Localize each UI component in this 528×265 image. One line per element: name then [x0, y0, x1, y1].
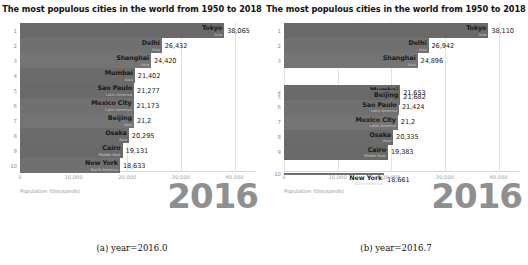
- bar-row[interactable]: 6Mexico CityLatin America21,173: [20, 98, 256, 113]
- bar-rank-label: 1: [271, 28, 281, 34]
- panel-caption: (a) year=2016.0: [0, 243, 264, 253]
- bar[interactable]: [284, 38, 429, 53]
- bar-rank-label: 10: [7, 163, 17, 169]
- bar-row[interactable]: 6Sao PauloLatin America21,424: [284, 100, 520, 115]
- bar-region-label: Asia: [408, 62, 416, 67]
- bar-region-label: Asia: [478, 32, 486, 37]
- bar-rank-label: 2: [271, 43, 281, 49]
- bar-rank-label: 7: [271, 119, 281, 125]
- bar-value-label: 26,942: [432, 42, 454, 50]
- bar-region-label: Asia: [383, 138, 391, 143]
- bar-region-label: Latin America: [105, 107, 131, 112]
- bar-rank-label: 8: [7, 133, 17, 139]
- bar-rank-label: 7: [7, 118, 17, 124]
- x-tick-label: 10,000: [65, 174, 83, 180]
- x-tick-label: 20,000: [382, 174, 400, 180]
- x-axis-label: Population (thousands): [20, 188, 80, 194]
- bar-region-label: Latin America: [370, 123, 396, 128]
- bar-rank-label: 5: [7, 88, 17, 94]
- bar-value-label: 21,2: [401, 118, 415, 126]
- bar-value-label: 21,277: [137, 87, 159, 95]
- bar-value-label: 21,402: [138, 72, 160, 80]
- x-tick-label: 20,000: [118, 174, 136, 180]
- figure-two-panel-bar-chart-race: The most populous cities in the world fr…: [0, 0, 528, 265]
- bar-region-label: Asia: [125, 77, 133, 82]
- bar-rank-label: 9: [271, 149, 281, 155]
- chart-panel-a: The most populous cities in the world fr…: [0, 0, 264, 265]
- year-annotation: 2016: [431, 179, 522, 213]
- bar[interactable]: [284, 23, 488, 38]
- bar-region-label: Asia: [419, 47, 427, 52]
- bar-row[interactable]: 1TokyoAsia38,065: [20, 23, 256, 38]
- bar-value-label: 19,131: [126, 147, 148, 155]
- bar-rank-label: 2: [7, 43, 17, 49]
- bar-region-label: Asia: [152, 47, 160, 52]
- bar-value-label: 21,173: [137, 102, 159, 110]
- bar-region-label: Asia: [141, 62, 149, 67]
- bar-region-label: North America: [90, 167, 118, 172]
- bar-value-label: 26,432: [165, 42, 187, 50]
- bar[interactable]: [20, 23, 224, 38]
- bar-value-label: 24,896: [421, 57, 443, 65]
- bar-row[interactable]: 8OsakaAsia20,295: [20, 128, 256, 143]
- bar-rank-label: 10: [271, 171, 281, 177]
- bar-value-label: 19,383: [391, 148, 413, 156]
- bar-region-label: Asia: [124, 122, 132, 127]
- bar-rank-label: 6: [271, 104, 281, 110]
- x-tick-label: 0: [18, 174, 21, 180]
- bar-row[interactable]: 9CairoMiddle East19,383: [284, 145, 520, 160]
- bar-rank-label: 4: [7, 73, 17, 79]
- plot-area-a: 1TokyoAsia38,0652DelhiAsia26,4323Shangha…: [20, 22, 256, 194]
- bar-region-label: Middle East: [99, 152, 121, 157]
- bar-row[interactable]: 7Mexico CityLatin America21,2: [284, 115, 520, 130]
- bar-region-label: Asia: [119, 137, 127, 142]
- bar-rank-label: 3: [271, 58, 281, 64]
- bar-value-label: 21,2: [137, 117, 151, 125]
- bar-value-label: 24,420: [154, 57, 176, 65]
- bar-region-label: Asia: [214, 32, 222, 37]
- bar-row[interactable]: 7BeijingAsia21,2: [20, 113, 256, 128]
- chart-title: The most populous cities in the world fr…: [264, 4, 528, 14]
- bar-value-label: 18,633: [123, 162, 145, 170]
- bar-row[interactable]: 2DelhiAsia26,432: [20, 38, 256, 53]
- bar-rank-label: 8: [271, 134, 281, 140]
- bar-rank-label: 3: [7, 58, 17, 64]
- bar-region-label: Latin America: [106, 92, 132, 97]
- chart-panel-b: The most populous cities in the world fr…: [264, 0, 528, 265]
- bar-row[interactable]: 1TokyoAsia38,110: [284, 23, 520, 38]
- bar-row[interactable]: 2DelhiAsia26,942: [284, 38, 520, 53]
- bar-row[interactable]: 5Sao PauloLatin America21,277: [20, 83, 256, 98]
- x-axis-label: Population (thousands): [284, 188, 344, 194]
- x-tick-label: 10,000: [329, 174, 347, 180]
- bar-rank-label: 1: [7, 28, 17, 34]
- bar-value-label: 20,295: [132, 132, 154, 140]
- bar-row[interactable]: 3ShanghaiAsia24,896: [284, 53, 520, 68]
- bar-rank-label: 6: [7, 103, 17, 109]
- year-annotation: 2016: [167, 179, 258, 213]
- bar[interactable]: [20, 38, 162, 53]
- chart-title: The most populous cities in the world fr…: [0, 4, 264, 14]
- bar-region-label: Latin America: [371, 108, 397, 113]
- bar-row[interactable]: 8OsakaAsia20,335: [284, 130, 520, 145]
- bar-region-label: Middle East: [364, 153, 386, 158]
- bar-rank-label: 9: [7, 148, 17, 154]
- bar-row[interactable]: 9CairoMiddle East19,131: [20, 143, 256, 158]
- bar-row[interactable]: 3ShanghaiAsia24,420: [20, 53, 256, 68]
- x-tick-label: 0: [282, 174, 285, 180]
- bar-rank-label: 5: [271, 94, 281, 100]
- panel-caption: (b) year=2016.7: [264, 243, 528, 253]
- bar-value-label: 38,065: [227, 27, 249, 35]
- plot-area-b: 1TokyoAsia38,1102DelhiAsia26,9423Shangha…: [284, 22, 520, 194]
- bar-value-label: 20,335: [396, 133, 418, 141]
- bar-value-label: 21,424: [402, 103, 424, 111]
- bar-row[interactable]: 10New YorkNorth America18,633: [20, 158, 256, 173]
- bar-row[interactable]: 4MumbaiAsia21,402: [20, 68, 256, 83]
- bar-value-label: 38,110: [491, 27, 513, 35]
